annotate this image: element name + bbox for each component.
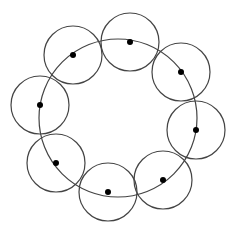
node-upper-right bbox=[152, 43, 210, 101]
center-dot bbox=[178, 69, 184, 75]
center-dot bbox=[193, 127, 199, 133]
node-group bbox=[11, 13, 225, 221]
center-dot bbox=[160, 177, 166, 183]
center-dot bbox=[70, 52, 76, 58]
center-dot bbox=[53, 160, 59, 166]
node-left bbox=[11, 76, 69, 134]
circle-ring-diagram bbox=[0, 0, 239, 231]
center-dot bbox=[127, 39, 133, 45]
node-bottom bbox=[79, 163, 137, 221]
node-lower-right bbox=[134, 151, 192, 209]
main-circular-path bbox=[39, 39, 197, 197]
node-top bbox=[101, 13, 159, 71]
center-dot bbox=[37, 102, 43, 108]
node-upper-left bbox=[44, 26, 102, 84]
center-dot bbox=[105, 189, 111, 195]
node-lower-left bbox=[27, 134, 85, 192]
